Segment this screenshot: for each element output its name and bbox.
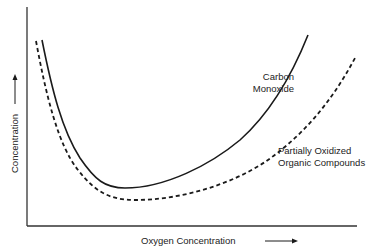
carbon-monoxide-curve <box>42 35 308 188</box>
y-axis-label: Concentration <box>9 114 20 173</box>
y-axis-arrowhead-icon <box>13 74 18 80</box>
x-axis-arrowhead-icon <box>292 239 298 244</box>
partially-oxidized-label-2: Organic Compounds <box>278 157 365 168</box>
x-axis-label: Oxygen Concentration <box>141 235 236 246</box>
carbon-monoxide-label-2: Monoxide <box>253 83 294 94</box>
partially-oxidized-curve <box>36 41 355 200</box>
carbon-monoxide-label-1: Carbon <box>263 71 294 82</box>
chart: Carbon Monoxide Partially Oxidized Organ… <box>0 0 371 250</box>
partially-oxidized-label-1: Partially Oxidized <box>278 145 351 156</box>
